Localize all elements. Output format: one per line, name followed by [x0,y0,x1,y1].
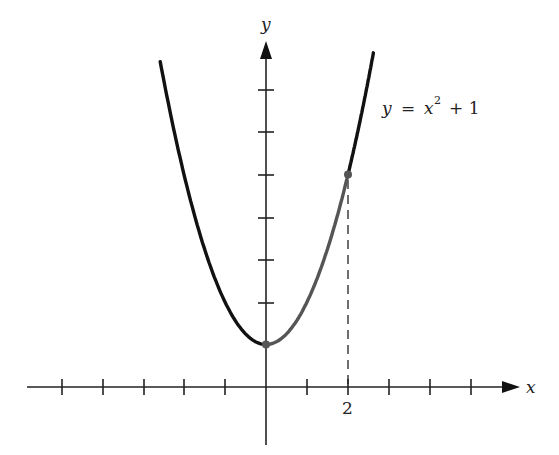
parabola-curve-highlighted [266,175,348,345]
svg-text:2: 2 [434,94,441,107]
y-axis-arrow-icon [260,41,272,59]
x-axis-arrow-icon [502,381,520,393]
highlight-point [344,171,352,179]
svg-text:+ 1: + 1 [449,98,479,118]
y-axis-label: y [260,14,271,34]
vertex-point [262,341,270,349]
svg-text:x: x [424,98,434,118]
parabola-figure: y x 2 y = x 2 + 1 [0,0,559,455]
svg-text:y: y [381,98,392,118]
x-axis-label: x [526,377,536,397]
equation-label: y = x 2 + 1 [381,94,479,118]
parabola-curve-right [348,53,373,175]
parabola-curve-left [160,62,266,345]
svg-text:=: = [401,98,415,118]
x-tick-label-2: 2 [342,398,353,418]
